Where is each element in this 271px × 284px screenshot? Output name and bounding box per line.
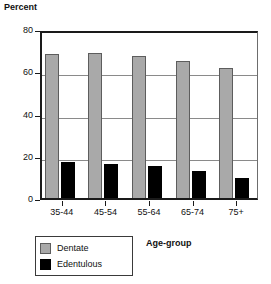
bar-chart: Percent 020406080 35-4445-5455-6465-7475… [0,0,271,284]
bar-dentate-55-64 [132,56,146,198]
legend: Dentate Edentulous [35,236,133,276]
x-tick-mark [105,201,106,206]
legend-label-dentate: Dentate [57,243,89,253]
bar-series-container [42,33,257,198]
x-axis-title: Age-group [146,238,192,248]
bar-dentate-45-54 [88,53,102,198]
y-tick-mark [35,200,40,201]
bar-dentate-35-44 [45,54,59,198]
legend-label-edentulous: Edentulous [57,259,102,269]
bar-edentulous-45-54 [104,164,118,198]
x-tick-label-45-54: 45-54 [83,207,127,217]
y-tick-label: 60 [11,67,33,77]
x-tick-mark [149,201,150,206]
x-tick-label-65-74: 65-74 [171,207,215,217]
y-axis-title: Percent [4,2,37,12]
bar-edentulous-75+ [235,178,249,198]
legend-swatch-dentate [40,243,51,254]
y-tick-label: 0 [11,194,33,204]
x-tick-mark [62,201,63,206]
x-tick-mark [236,201,237,206]
x-tick-label-55-64: 55-64 [127,207,171,217]
legend-item-edentulous: Edentulous [40,256,128,272]
y-tick-label: 20 [11,152,33,162]
y-tick-label: 80 [11,25,33,35]
bar-dentate-75+ [219,68,233,198]
x-tick-mark [193,201,194,206]
x-tick-label-35-44: 35-44 [40,207,84,217]
x-tick-label-75+: 75+ [214,207,258,217]
legend-item-dentate: Dentate [40,240,128,256]
bar-edentulous-65-74 [192,171,206,198]
bar-edentulous-35-44 [61,162,75,198]
legend-swatch-edentulous [40,259,51,270]
bar-edentulous-55-64 [148,166,162,198]
y-tick-label: 40 [11,110,33,120]
bar-dentate-65-74 [176,61,190,198]
plot-area [40,31,258,200]
